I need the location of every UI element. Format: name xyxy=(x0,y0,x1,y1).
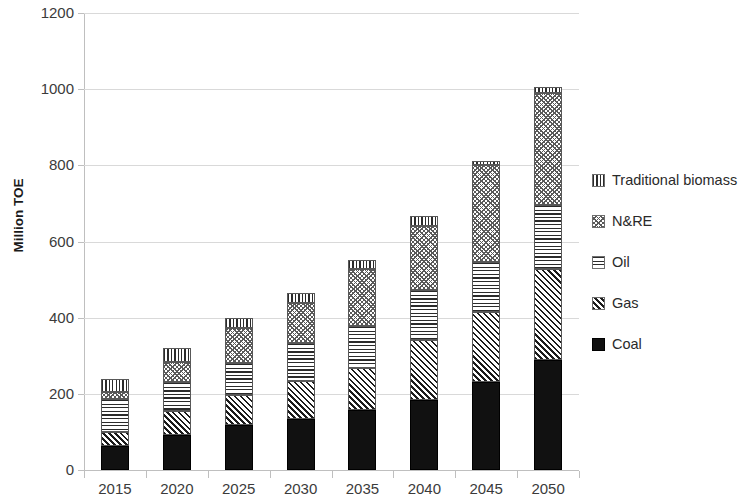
x-axis-tick-label: 2025 xyxy=(208,481,270,496)
y-axis-tick-label: 0 xyxy=(4,462,74,477)
y-axis-tick xyxy=(78,165,84,166)
y-axis-tick-label: 600 xyxy=(4,234,74,249)
bar-segment[interactable] xyxy=(163,411,191,435)
horizontal-stripes-swatch-icon xyxy=(592,256,605,269)
gridline xyxy=(84,89,579,90)
y-axis-tick-label: 200 xyxy=(4,386,74,401)
bar-segment[interactable] xyxy=(410,216,438,226)
chart-legend: Traditional biomassN&REOilGasCoal xyxy=(592,160,751,365)
x-axis-tick xyxy=(146,471,147,478)
x-axis-tick xyxy=(332,471,333,478)
bar-segment[interactable] xyxy=(348,368,376,410)
diagonal-stripes-swatch-icon xyxy=(592,297,605,310)
bar-segment[interactable] xyxy=(287,343,315,381)
bar-segment[interactable] xyxy=(163,362,191,382)
gridline xyxy=(84,394,579,395)
x-axis-tick xyxy=(270,471,271,478)
bar-segment[interactable] xyxy=(410,400,438,470)
legend-item-label: Oil xyxy=(612,255,630,270)
bar-segment[interactable] xyxy=(472,161,500,165)
bar-segment[interactable] xyxy=(225,425,253,470)
bar-segment[interactable] xyxy=(472,382,500,470)
x-axis-tick-label: 2020 xyxy=(146,481,208,496)
x-axis-tick xyxy=(84,471,85,478)
bar-segment[interactable] xyxy=(534,205,562,269)
gridline xyxy=(84,165,579,166)
bar-segment[interactable] xyxy=(163,382,191,411)
y-axis-tick xyxy=(78,89,84,90)
x-axis-tick-label: 2015 xyxy=(84,481,146,496)
vertical-stripes-swatch-icon xyxy=(592,174,605,187)
bar-segment[interactable] xyxy=(287,419,315,470)
bar-segment[interactable] xyxy=(348,269,376,326)
bar-segment[interactable] xyxy=(410,226,438,290)
y-axis-tick-label: 1200 xyxy=(4,5,74,20)
legend-item[interactable]: Coal xyxy=(592,324,751,365)
y-axis-tick xyxy=(78,13,84,14)
x-axis-tick-label: 2050 xyxy=(517,481,579,496)
bar-segment[interactable] xyxy=(101,432,129,446)
bar-segment[interactable] xyxy=(225,318,253,328)
y-axis-tick-label: 800 xyxy=(4,157,74,172)
bar-segment[interactable] xyxy=(534,269,562,360)
gridline xyxy=(84,318,579,319)
x-axis-tick xyxy=(393,471,394,478)
y-axis-tick xyxy=(78,470,84,471)
bar-segment[interactable] xyxy=(472,165,500,262)
x-axis-tick-label: 2035 xyxy=(331,481,393,496)
bar-segment[interactable] xyxy=(472,262,500,312)
bar-segment[interactable] xyxy=(287,303,315,343)
bar-segment[interactable] xyxy=(225,328,253,363)
bar-segment[interactable] xyxy=(101,379,129,392)
cross-hatch-swatch-icon xyxy=(592,215,605,228)
y-axis-tick xyxy=(78,394,84,395)
x-axis-tick xyxy=(208,471,209,478)
x-axis-tick xyxy=(455,471,456,478)
gridline xyxy=(84,13,579,14)
bar-segment[interactable] xyxy=(287,381,315,419)
bar-segment[interactable] xyxy=(410,290,438,340)
plot-area xyxy=(84,13,579,470)
x-axis-tick-label: 2045 xyxy=(455,481,517,496)
y-axis-tick xyxy=(78,318,84,319)
legend-item-label: Gas xyxy=(612,296,639,311)
bar-segment[interactable] xyxy=(348,410,376,470)
bar-segment[interactable] xyxy=(410,340,438,400)
bar-segment[interactable] xyxy=(287,293,315,303)
legend-item[interactable]: N&RE xyxy=(592,201,751,242)
bar-segment[interactable] xyxy=(534,87,562,93)
gridline xyxy=(84,242,579,243)
bar-segment[interactable] xyxy=(163,348,191,362)
y-axis-tick-labels: 120010008006004002000 xyxy=(0,0,74,502)
y-axis-tick-label: 400 xyxy=(4,310,74,325)
bar-segment[interactable] xyxy=(163,435,191,470)
legend-item[interactable]: Gas xyxy=(592,283,751,324)
bar-segment[interactable] xyxy=(101,399,129,432)
x-axis-tick xyxy=(517,471,518,478)
solid-black-swatch-icon xyxy=(592,338,605,351)
x-axis-tick-label: 2030 xyxy=(270,481,332,496)
legend-item-label: N&RE xyxy=(612,214,652,229)
legend-item[interactable]: Oil xyxy=(592,242,751,283)
bar-segment[interactable] xyxy=(472,312,500,382)
bar-segment[interactable] xyxy=(534,93,562,206)
legend-item-label: Traditional biomass xyxy=(612,173,737,188)
bar-segment[interactable] xyxy=(225,395,253,425)
bar-segment[interactable] xyxy=(101,392,129,399)
y-axis-tick-label: 1000 xyxy=(4,81,74,96)
stacked-bar-chart: Million TOE 120010008006004002000 201520… xyxy=(0,0,751,502)
bar-segment[interactable] xyxy=(225,363,253,395)
legend-item-label: Coal xyxy=(612,337,642,352)
legend-item[interactable]: Traditional biomass xyxy=(592,160,751,201)
x-axis-tick-label: 2040 xyxy=(393,481,455,496)
bar-segment[interactable] xyxy=(101,446,129,470)
x-axis-tick xyxy=(579,471,580,478)
bar-segment[interactable] xyxy=(348,326,376,368)
bar-segment[interactable] xyxy=(534,360,562,470)
y-axis-tick xyxy=(78,242,84,243)
bar-segment[interactable] xyxy=(348,260,376,269)
